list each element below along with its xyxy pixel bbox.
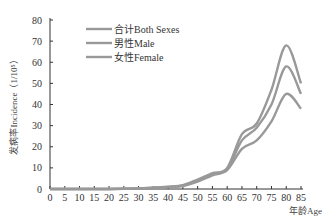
chart-lines (50, 45, 301, 189)
y-tick-label: 30 (32, 120, 42, 131)
legend-label: 合计Both Sexes (114, 23, 179, 35)
x-tick-label: 0 (48, 192, 53, 203)
x-tick-label: 70 (252, 192, 262, 203)
y-tick-label: 40 (32, 99, 42, 110)
x-tick-label: 10 (75, 192, 85, 203)
y-axis: 01020304050607080 (32, 15, 53, 195)
legend: 合计Both Sexes男性Male女性Female (86, 23, 179, 63)
x-tick-label: 25 (119, 192, 129, 203)
y-tick-label: 50 (32, 78, 42, 89)
x-tick-label: 80 (281, 192, 291, 203)
legend-label: 男性Male (114, 37, 155, 49)
x-tick-label: 15 (89, 192, 99, 203)
x-tick-label: 65 (237, 192, 247, 203)
x-tick-label: 20 (104, 192, 114, 203)
series-line (50, 66, 301, 189)
y-tick-label: 70 (32, 36, 42, 47)
y-tick-label: 20 (32, 141, 42, 152)
x-tick-label: 45 (178, 192, 188, 203)
y-tick-label: 60 (32, 57, 42, 68)
line-chart: 01020304050607080 0510152025303540455055… (0, 0, 324, 223)
legend-label: 女性Female (114, 51, 164, 63)
y-tick-label: 0 (37, 184, 42, 195)
y-tick-label: 10 (32, 162, 42, 173)
x-tick-label: 35 (148, 192, 158, 203)
y-axis-title: 发病率Incidence（1/10⁵） (8, 55, 19, 154)
x-tick-label: 5 (62, 192, 67, 203)
x-tick-label: 60 (222, 192, 232, 203)
x-tick-label: 30 (134, 192, 144, 203)
x-axis-title: 年龄Age (289, 205, 322, 216)
y-tick-label: 80 (32, 15, 42, 26)
x-tick-label: 50 (193, 192, 203, 203)
x-tick-label: 40 (163, 192, 173, 203)
x-tick-label: 85 (296, 192, 306, 203)
x-tick-label: 75 (266, 192, 276, 203)
x-tick-label: 55 (207, 192, 217, 203)
